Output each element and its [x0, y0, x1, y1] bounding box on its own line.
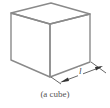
- extension-line-left: [51, 77, 61, 84]
- cube-left-face: [11, 13, 50, 77]
- cube-top-face: [11, 3, 90, 24]
- figure-caption: (a cube): [0, 89, 110, 99]
- cube-right-face: [50, 14, 90, 77]
- arrow-left-icon: [60, 78, 69, 83]
- cube-figure: l (a cube): [0, 0, 110, 108]
- dimension-label: l: [78, 67, 83, 76]
